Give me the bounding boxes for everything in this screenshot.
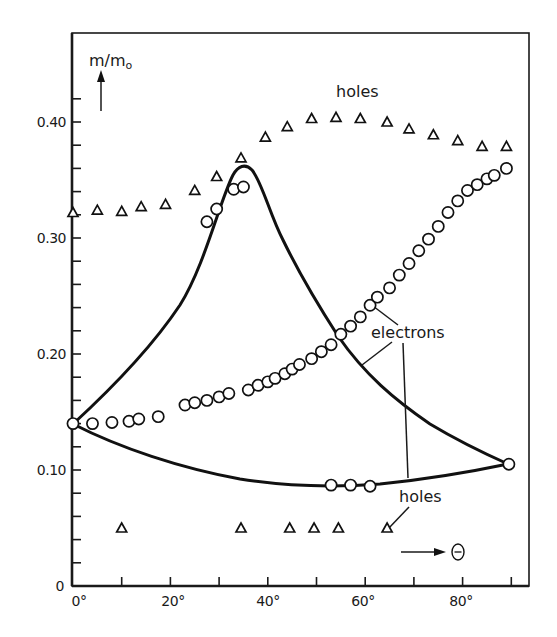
electrons-label: electrons: [371, 323, 445, 342]
triangle-marker: [477, 141, 487, 150]
circle-marker: [106, 417, 117, 428]
circle-marker: [306, 353, 317, 364]
triangle-marker: [117, 206, 127, 215]
y-tick-label: 0.30: [37, 230, 66, 246]
triangle-marker: [260, 132, 270, 141]
triangle-marker: [68, 207, 78, 216]
triangle-marker: [307, 114, 317, 123]
triangle-marker: [453, 136, 463, 145]
hole-theory-curve: [73, 424, 508, 486]
x-tick-label: 80°: [449, 593, 472, 609]
circle-marker: [423, 234, 434, 245]
circle-marker: [316, 346, 327, 357]
data-markers: [67, 112, 514, 532]
x-tick-label: 20°: [161, 593, 184, 609]
triangle-marker: [117, 523, 127, 532]
triangle-marker: [92, 205, 102, 214]
y-axis-label: m/mo: [89, 51, 133, 72]
triangle-marker: [382, 523, 392, 532]
circle-marker: [413, 245, 424, 256]
electrons-leader-line: [362, 342, 392, 365]
circle-marker: [364, 481, 375, 492]
circle-marker: [189, 397, 200, 408]
triangle-marker: [428, 130, 438, 139]
y-ticks: [72, 99, 81, 563]
x-tick-label: 40°: [256, 593, 279, 609]
y-tick-label: 0.40: [37, 114, 66, 130]
x-tick-label: 60°: [351, 593, 374, 609]
triangle-marker: [212, 172, 222, 181]
triangle-marker: [161, 199, 171, 208]
circle-marker: [201, 216, 212, 227]
triangle-marker: [404, 124, 414, 133]
x-tick-label: 0°: [72, 593, 87, 609]
triangle-marker: [282, 122, 292, 131]
triangle-marker: [285, 523, 295, 532]
circle-marker: [67, 418, 78, 429]
arrow-up-icon: [97, 70, 105, 82]
circle-marker: [335, 329, 346, 340]
triangle-marker: [333, 523, 343, 532]
circle-marker: [503, 459, 514, 470]
triangle-marker: [382, 117, 392, 126]
triangle-marker: [236, 153, 246, 162]
triangle-marker: [501, 141, 511, 150]
circle-marker: [489, 170, 500, 181]
circle-marker: [153, 411, 164, 422]
triangle-marker: [309, 523, 319, 532]
circle-marker: [394, 270, 405, 281]
triangle-marker: [236, 523, 246, 532]
circle-marker: [201, 395, 212, 406]
arrow-right-icon: [434, 548, 446, 556]
circle-marker: [372, 292, 383, 303]
circle-marker: [326, 479, 337, 490]
circle-marker: [345, 479, 356, 490]
circle-marker: [501, 163, 512, 174]
circle-marker: [133, 413, 144, 424]
holes-leader-line: [388, 507, 409, 529]
plot-frame: [72, 33, 529, 586]
circle-marker: [223, 388, 234, 399]
triangle-marker: [190, 185, 200, 194]
electrons-leader-line: [403, 343, 408, 478]
holes-upper-label: holes: [336, 82, 379, 101]
circle-marker: [403, 258, 414, 269]
circle-marker: [384, 282, 395, 293]
chart: 0 0.10 0.20 0.30 0.40 0° 20° 40° 60° 80°…: [0, 0, 557, 637]
triangle-marker: [331, 112, 341, 121]
circle-marker: [345, 321, 356, 332]
triangle-marker: [355, 114, 365, 123]
holes-lower-label: holes: [399, 487, 442, 506]
circle-marker: [326, 339, 337, 350]
triangle-marker: [136, 202, 146, 211]
circle-marker: [294, 359, 305, 370]
circle-marker: [433, 221, 444, 232]
y-tick-label: 0.20: [37, 346, 66, 362]
y-tick-label: 0: [56, 578, 64, 594]
x-ticks: [122, 577, 512, 586]
circle-marker: [355, 311, 366, 322]
y-tick-label: 0.10: [37, 462, 66, 478]
circle-marker: [211, 203, 222, 214]
circle-marker: [452, 195, 463, 206]
circle-marker: [87, 418, 98, 429]
circle-marker: [442, 207, 453, 218]
circle-marker: [238, 181, 249, 192]
